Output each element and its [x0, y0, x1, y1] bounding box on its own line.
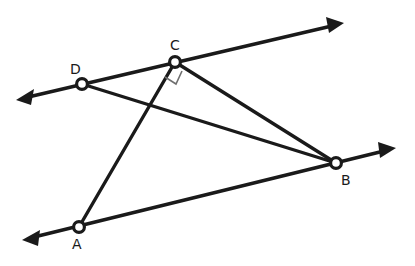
point-label-a: A [72, 237, 82, 251]
geometry-figure: C D B A [0, 0, 415, 266]
point-label-d: D [70, 62, 81, 76]
upper-ray-right-arrowhead-icon [326, 17, 344, 33]
vertex-point-c[interactable] [170, 57, 181, 68]
rays-group [16, 17, 396, 246]
vertex-point-d[interactable] [77, 79, 88, 90]
point-label-c: C [170, 38, 180, 52]
segment-d-b [82, 84, 336, 163]
lower-ray-right-arrowhead-icon [378, 142, 396, 158]
lower-ray-left-arrowhead-icon [22, 230, 40, 246]
segment-c-b [175, 62, 336, 163]
vertex-point-b[interactable] [331, 158, 342, 169]
upper-ray-left-arrowhead-icon [16, 89, 34, 105]
segments-group [79, 62, 336, 227]
vertex-point-a[interactable] [74, 222, 85, 233]
geometry-canvas [0, 0, 415, 266]
point-label-b: B [341, 173, 351, 187]
